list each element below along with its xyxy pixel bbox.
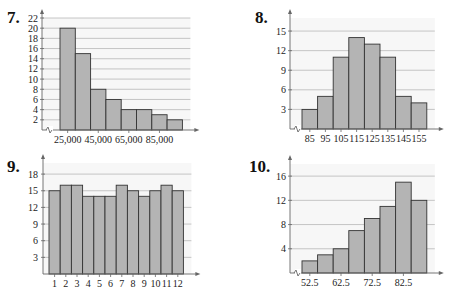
histogram-bar [349,231,365,273]
histogram-bar [302,261,318,273]
histogram-bar [333,249,349,273]
x-tick-label: 82.5 [395,277,413,288]
y-tick-label: 12 [276,195,286,206]
y-tick-label: 16 [276,171,286,182]
histogram-bar [318,255,334,273]
histogram-bar [396,182,412,273]
histogram-bar [411,200,427,273]
histogram-bar [380,206,396,273]
histogram-bar [364,219,380,274]
y-tick-label: 4 [281,243,286,254]
chart-10-histogram: 48121652.562.572.582.5 [0,0,458,303]
x-tick-label: 52.5 [301,277,319,288]
x-axis-arrow-icon [439,271,444,275]
x-tick-label: 72.5 [363,277,381,288]
y-tick-label: 8 [281,219,286,230]
y-axis-arrow-icon [288,155,292,160]
x-tick-label: 62.5 [332,277,350,288]
